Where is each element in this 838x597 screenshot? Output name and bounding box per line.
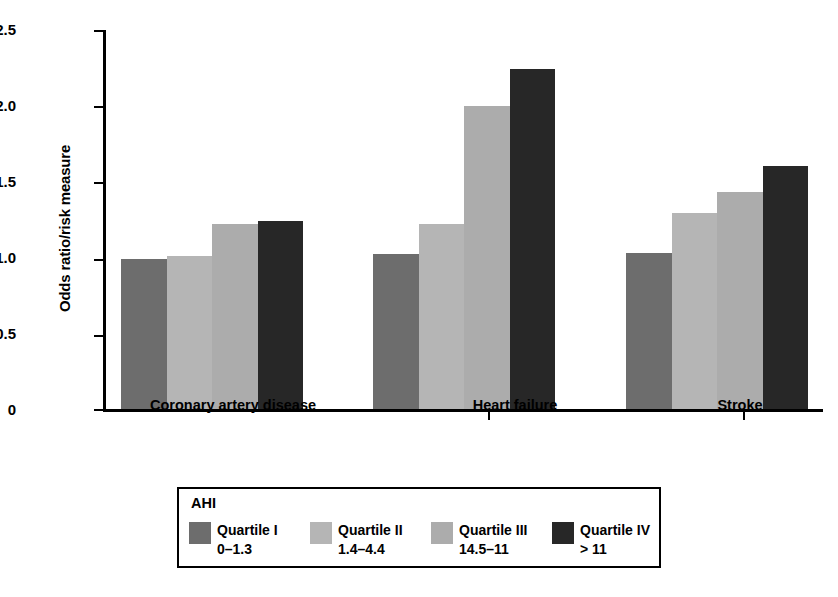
legend-series-name: Quartile II	[338, 521, 403, 540]
legend-series-name: Quartile III	[459, 521, 527, 540]
y-tick-label-1.5: 1.5	[0, 174, 16, 189]
legend-series-range: 0–1.3	[217, 540, 278, 559]
bars-layer	[103, 30, 823, 409]
y-tick-label-2.5: 2.5	[0, 22, 16, 37]
legend-label-block: Quartile III14.5–11	[459, 521, 527, 559]
legend-item-quartile-ii: Quartile II1.4–4.4	[310, 521, 431, 559]
legend-items: Quartile I0–1.3Quartile II1.4–4.4Quartil…	[189, 521, 673, 559]
x-category-label-stroke: Stroke	[650, 396, 830, 414]
legend-series-range: > 11	[580, 540, 650, 559]
y-tick-label-0.5: 0.5	[0, 326, 16, 341]
legend-label-block: Quartile II1.4–4.4	[338, 521, 403, 559]
legend-swatch-icon-1	[189, 522, 211, 544]
bar-heart-failure-quartile-iii	[464, 106, 510, 409]
legend-series-name: Quartile IV	[580, 521, 650, 540]
legend-label-block: Quartile IV> 11	[580, 521, 650, 559]
legend-series-range: 1.4–4.4	[338, 540, 403, 559]
y-tick-label-0: 0	[0, 402, 16, 417]
bar-heart-failure-quartile-ii	[419, 224, 465, 409]
bar-coronary-artery-disease-quartile-iv	[258, 221, 304, 409]
legend: AHI Quartile I0–1.3Quartile II1.4–4.4Qua…	[177, 487, 661, 568]
bar-coronary-artery-disease-quartile-i	[121, 259, 167, 409]
y-axis-title: Odds ratio/risk measure	[56, 79, 73, 379]
legend-swatch-icon-2	[310, 522, 332, 544]
legend-title: AHI	[191, 495, 216, 511]
legend-item-quartile-i: Quartile I0–1.3	[189, 521, 310, 559]
y-tick-label-1.0: 1.0	[0, 250, 16, 265]
bar-stroke-quartile-ii	[672, 213, 718, 409]
legend-item-quartile-iv: Quartile IV> 11	[552, 521, 673, 559]
bar-stroke-quartile-iv	[763, 166, 809, 409]
x-category-label-heart-failure: Heart failure	[400, 396, 630, 414]
legend-swatch-icon-4	[552, 522, 574, 544]
plot-area	[103, 30, 823, 411]
x-category-label-coronary-artery-disease: Coronary artery disease	[103, 396, 363, 414]
bar-coronary-artery-disease-quartile-iii	[212, 224, 258, 409]
bar-chart-figure: Odds ratio/risk measure 2.5 2.0 1.5 1.0 …	[0, 0, 838, 597]
bar-coronary-artery-disease-quartile-ii	[167, 256, 213, 409]
legend-series-name: Quartile I	[217, 521, 278, 540]
legend-swatch-icon-3	[431, 522, 453, 544]
bar-heart-failure-quartile-iv	[510, 69, 556, 409]
y-axis-title-container: Odds ratio/risk measure	[14, 20, 48, 420]
legend-item-quartile-iii: Quartile III14.5–11	[431, 521, 552, 559]
legend-label-block: Quartile I0–1.3	[217, 521, 278, 559]
bar-stroke-quartile-i	[626, 253, 672, 409]
legend-series-range: 14.5–11	[459, 540, 527, 559]
bar-heart-failure-quartile-i	[373, 254, 419, 409]
y-tick-label-2.0: 2.0	[0, 98, 16, 113]
bar-stroke-quartile-iii	[717, 192, 763, 409]
